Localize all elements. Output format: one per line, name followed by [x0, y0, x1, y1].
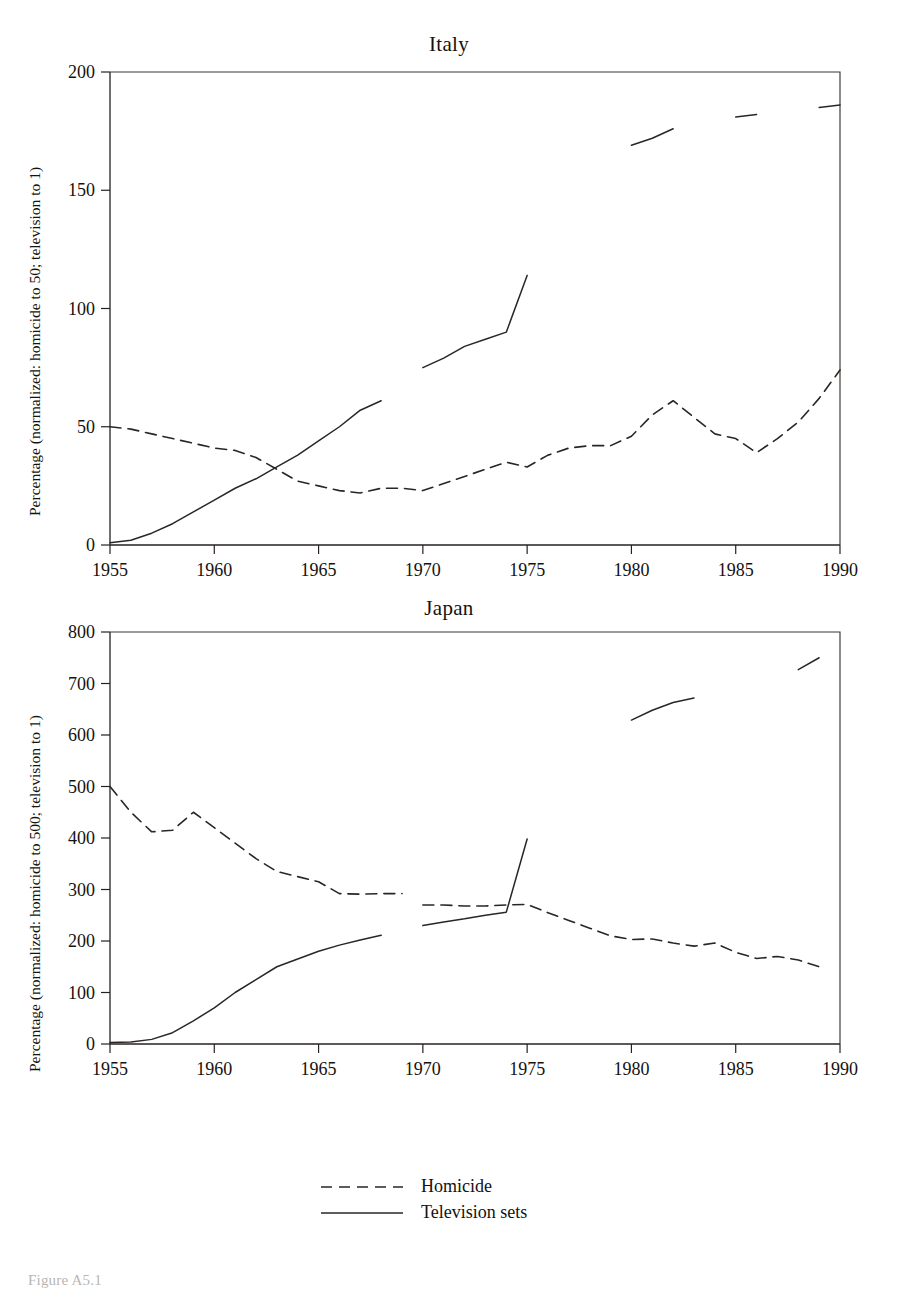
- y-axis-tick-label: 700: [68, 674, 95, 694]
- y-axis-tick-label: 150: [68, 180, 95, 200]
- x-axis-tick-label: 1970: [405, 1059, 441, 1079]
- x-axis-tick-label: 1970: [405, 560, 441, 580]
- x-axis-tick-label: 1955: [92, 560, 128, 580]
- y-axis-tick-label: 800: [68, 622, 95, 642]
- y-axis-tick-label: 50: [77, 417, 95, 437]
- y-axis-label-italy: Percentage (normalized: homicide to 50; …: [26, 167, 44, 516]
- series-television-sets: [423, 275, 527, 367]
- x-axis-tick-label: 1960: [196, 1059, 232, 1079]
- y-axis-tick-label: 0: [86, 1034, 95, 1054]
- x-axis-tick-label: 1990: [822, 560, 858, 580]
- legend-item-television-sets: Television sets: [319, 1202, 579, 1223]
- legend-swatch-solid: [319, 1206, 405, 1220]
- y-axis-tick-label: 600: [68, 725, 95, 745]
- x-axis-tick-label: 1975: [509, 1059, 545, 1079]
- y-axis-tick-label: 400: [68, 828, 95, 848]
- x-axis-tick-label: 1960: [196, 560, 232, 580]
- x-axis-tick-label: 1980: [613, 560, 649, 580]
- legend-label-homicide: Homicide: [421, 1176, 492, 1197]
- plot-frame: [110, 72, 840, 545]
- series-television-sets: [110, 935, 381, 1042]
- series-television-sets: [423, 839, 527, 926]
- chart-panel-japan: Japan 0100200300400500600700800195519601…: [0, 592, 898, 1117]
- y-axis-label-japan: Percentage (normalized: homicide to 500;…: [26, 715, 44, 1072]
- chart-svg-italy: 0501001502001955196019651970197519801985…: [0, 20, 898, 580]
- series-television-sets: [798, 658, 819, 670]
- chart-legend: Homicide Television sets: [0, 1176, 898, 1223]
- x-axis-tick-label: 1955: [92, 1059, 128, 1079]
- y-axis-tick-label: 0: [86, 535, 95, 555]
- series-homicide: [110, 787, 402, 895]
- chart-panel-italy: Italy 0501001502001955196019651970197519…: [0, 20, 898, 580]
- y-axis-tick-label: 300: [68, 880, 95, 900]
- series-homicide: [423, 904, 819, 966]
- y-axis-tick-label: 200: [68, 62, 95, 82]
- x-axis-tick-label: 1985: [718, 1059, 754, 1079]
- chart-title-italy: Italy: [0, 32, 898, 57]
- figure-caption: Figure A5.1: [28, 1272, 102, 1289]
- x-axis-tick-label: 1980: [613, 1059, 649, 1079]
- x-axis-tick-label: 1965: [301, 1059, 337, 1079]
- x-axis-tick-label: 1975: [509, 560, 545, 580]
- legend-swatch-dashed: [319, 1180, 405, 1194]
- y-axis-tick-label: 100: [68, 983, 95, 1003]
- chart-title-japan: Japan: [0, 596, 898, 621]
- series-television-sets: [819, 105, 840, 107]
- x-axis-tick-label: 1990: [822, 1059, 858, 1079]
- y-axis-tick-label: 500: [68, 777, 95, 797]
- series-television-sets: [736, 115, 757, 117]
- y-axis-tick-label: 100: [68, 299, 95, 319]
- series-television-sets: [631, 698, 694, 720]
- legend-item-homicide: Homicide: [319, 1176, 579, 1197]
- plot-frame: [110, 632, 840, 1044]
- x-axis-tick-label: 1985: [718, 560, 754, 580]
- legend-label-television-sets: Television sets: [421, 1202, 527, 1223]
- x-axis-tick-label: 1965: [301, 560, 337, 580]
- figure-page: Italy 0501001502001955196019651970197519…: [0, 0, 898, 1300]
- series-television-sets: [631, 129, 673, 146]
- series-homicide: [110, 370, 840, 493]
- y-axis-tick-label: 200: [68, 931, 95, 951]
- series-television-sets: [110, 401, 381, 543]
- chart-svg-japan: 0100200300400500600700800195519601965197…: [0, 592, 898, 1117]
